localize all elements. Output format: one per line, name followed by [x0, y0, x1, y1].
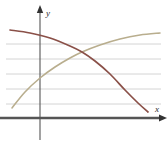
graph-figure: y x: [0, 0, 167, 145]
y-axis-label: y: [45, 8, 50, 18]
plot-background: [0, 0, 167, 145]
x-axis-label: x: [154, 104, 159, 114]
coordinate-plot: y x: [0, 0, 167, 145]
